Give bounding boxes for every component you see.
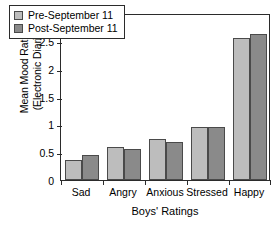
y-axis-tick-label: 2: [28, 65, 54, 75]
bar-group: [149, 15, 183, 180]
y-axis-tick-mark: [57, 99, 62, 100]
bar-group: [233, 15, 267, 180]
plot-area: [60, 14, 270, 181]
x-axis-tick-mark: [187, 180, 188, 185]
x-axis-tick-label: Anxious: [146, 186, 183, 198]
bar-pre: [107, 147, 124, 180]
bar-post: [166, 142, 183, 180]
y-axis-tick-mark: [57, 126, 62, 127]
legend-item: Pre-September 11: [14, 9, 118, 22]
legend-swatch-pre: [14, 11, 23, 20]
x-axis-title: Boys' Ratings: [60, 205, 270, 218]
y-axis-tick-label: 1: [28, 120, 54, 130]
bar-pre: [65, 160, 82, 180]
legend-item: Post-September 11: [14, 22, 118, 35]
y-axis-tick-label: 0.5: [28, 148, 54, 158]
y-axis-tick-label: 0: [28, 176, 54, 186]
chart-legend: Pre-September 11Post-September 11: [9, 5, 125, 39]
bar-post: [250, 34, 267, 180]
bar-series-container: [61, 15, 269, 180]
y-axis-tick-mark: [57, 154, 62, 155]
x-axis-tick-mark: [270, 180, 271, 185]
bar-pre: [149, 139, 166, 180]
bar-post: [82, 155, 99, 180]
bar-pre: [191, 127, 208, 180]
x-axis-tick-labels: SadAngryAnxiousStressedHappy: [60, 186, 270, 202]
bar-chart-figure: Mean Mood Ratings (Electronic Diaries) 0…: [0, 0, 279, 228]
x-axis-tick-mark: [61, 180, 62, 185]
bar-group: [191, 15, 225, 180]
bar-post: [208, 127, 225, 180]
y-axis-tick-label: 1.5: [28, 93, 54, 103]
y-axis-tick-mark: [57, 71, 62, 72]
bar-group: [107, 15, 141, 180]
x-axis-tick-label: Angry: [109, 186, 136, 198]
bar-group: [65, 15, 99, 180]
legend-label: Post-September 11: [28, 23, 118, 34]
x-axis-tick-mark: [145, 180, 146, 185]
x-axis-tick-label: Stressed: [186, 186, 227, 198]
x-axis-tick-label: Happy: [234, 186, 264, 198]
x-axis-tick-label: Sad: [72, 186, 91, 198]
legend-swatch-post: [14, 24, 23, 33]
x-axis-tick-mark: [103, 180, 104, 185]
x-axis-tick-mark: [229, 180, 230, 185]
bar-pre: [233, 38, 250, 180]
y-axis-tick-mark: [57, 43, 62, 44]
legend-label: Pre-September 11: [28, 10, 113, 21]
bar-post: [124, 149, 141, 180]
